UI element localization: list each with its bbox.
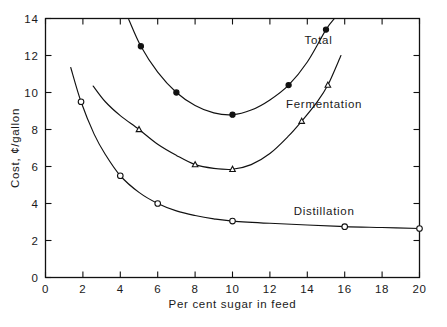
figure-container: 02468101214161820 02468101214 TotalFerme…: [0, 0, 447, 327]
y-tick-label: 14: [24, 13, 38, 25]
data-point-distillation: [230, 218, 236, 224]
data-point-distillation: [78, 99, 84, 105]
x-tick-label: 6: [154, 283, 161, 295]
x-tick-label: 14: [300, 283, 314, 295]
series-label-distillation: Distillation: [294, 205, 355, 217]
x-axis-tick-labels: 02468101214161820: [42, 283, 427, 295]
series-label-total: Total: [305, 34, 333, 46]
curve-fermentation: [93, 56, 341, 170]
series-markers: [78, 27, 422, 231]
data-point-total: [174, 90, 179, 95]
y-tick-label: 12: [24, 50, 38, 62]
data-point-fermentation: [136, 127, 142, 132]
data-point-total: [286, 83, 291, 88]
data-point-total: [138, 44, 143, 49]
data-point-fermentation: [230, 166, 236, 171]
axis-titles: Per cent sugar in feedCost, ¢/gallon: [9, 108, 296, 310]
data-point-distillation: [342, 224, 348, 230]
y-tick-label: 6: [31, 161, 38, 173]
x-axis-title: Per cent sugar in feed: [169, 298, 297, 310]
cost-vs-sugar-chart: 02468101214161820 02468101214 TotalFerme…: [0, 0, 447, 327]
y-tick-label: 0: [31, 272, 38, 284]
series-label-fermentation: Fermentation: [286, 98, 362, 110]
x-tick-label: 8: [192, 283, 199, 295]
data-point-fermentation: [325, 82, 331, 87]
x-tick-label: 4: [117, 283, 124, 295]
x-tick-label: 12: [263, 283, 277, 295]
x-tick-label: 18: [375, 283, 389, 295]
data-point-fermentation: [192, 162, 198, 167]
y-axis-title: Cost, ¢/gallon: [9, 108, 21, 188]
x-tick-label: 16: [338, 283, 352, 295]
data-point-distillation: [417, 226, 423, 232]
x-tick-label: 20: [412, 283, 426, 295]
data-point-distillation: [155, 201, 161, 207]
x-tick-label: 2: [79, 283, 86, 295]
x-tick-label: 0: [42, 283, 49, 295]
x-tick-label: 10: [225, 283, 239, 295]
y-tick-label: 10: [24, 87, 38, 99]
y-tick-label: 8: [31, 124, 38, 136]
y-axis-tick-labels: 02468101214: [24, 13, 38, 284]
y-tick-label: 4: [31, 198, 38, 210]
data-point-total: [323, 27, 328, 32]
series-curves: [71, 19, 420, 229]
curve-distillation: [71, 68, 420, 229]
y-tick-label: 2: [31, 235, 38, 247]
data-point-total: [230, 112, 235, 117]
data-point-distillation: [118, 173, 124, 179]
